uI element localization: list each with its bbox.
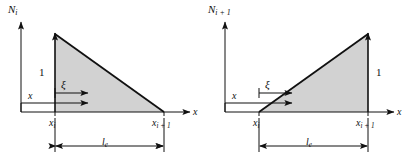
right-xi-label: ξ	[265, 79, 270, 90]
left-node-label-i: xi	[49, 118, 55, 130]
right-x-coordinate-label: x	[232, 91, 236, 101]
right-height-label: 1	[376, 67, 382, 78]
left-element-length-label: le	[102, 137, 108, 149]
left-y-axis-label: Ni	[8, 4, 18, 17]
right-x-axis-label: x	[397, 107, 401, 117]
panel-right-shape-function: Ni + 1 x 1 ξ x xi xi + 1 le	[204, 0, 408, 167]
right-node-label-i-plus-1: xi + 1	[356, 118, 375, 130]
left-xi-label: ξ	[61, 79, 66, 90]
left-x-coordinate-label: x	[28, 91, 32, 101]
left-height-label: 1	[39, 67, 45, 78]
right-element-length-label: le	[306, 137, 312, 149]
right-node-label-i: xi	[253, 118, 259, 130]
right-y-axis-label: Ni + 1	[208, 4, 231, 17]
left-node-label-i-plus-1: xi + 1	[152, 118, 171, 130]
left-x-axis-label: x	[193, 107, 197, 117]
panel-left-shape-function: Ni x 1 ξ x xi xi + 1 le	[0, 0, 204, 167]
shape-function-figure: Ni x 1 ξ x xi xi + 1 le	[0, 0, 408, 167]
